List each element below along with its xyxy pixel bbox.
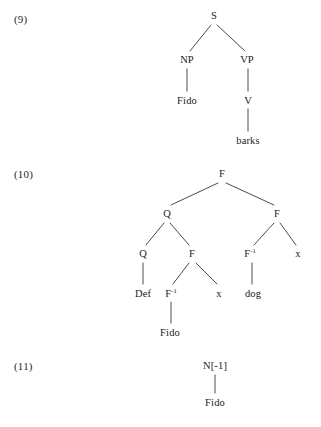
tree10-branch-root-f xyxy=(226,183,274,205)
tree9-node-v: V xyxy=(244,96,252,107)
tree-branch-lines xyxy=(0,0,321,427)
tree11-leaf-fido: Fido xyxy=(205,398,225,409)
tree10-leaf-x-mid: x xyxy=(216,289,221,300)
example-label-11: (11) xyxy=(14,361,33,372)
tree9-leaf-barks: barks xyxy=(236,136,260,147)
tree10-branch-fright-finv xyxy=(254,223,274,245)
tree10-node-f-inner: F xyxy=(189,249,195,260)
tree10-branch-q-q xyxy=(146,223,164,245)
figure-root: (9) S NP VP Fido V barks (10) F Q F Q F … xyxy=(0,0,321,427)
tree10-node-f-root: F xyxy=(219,169,225,180)
tree10-node-f-right: F xyxy=(274,209,280,220)
tree10-node-x-right: x xyxy=(295,249,300,260)
tree9-node-vp: VP xyxy=(240,55,254,66)
tree10-leaf-def: Def xyxy=(135,289,151,300)
tree9-leaf-fido: Fido xyxy=(177,96,197,107)
tree9-node-np: NP xyxy=(180,55,194,66)
example-label-10: (10) xyxy=(14,169,33,180)
tree10-branch-fright-x xyxy=(280,223,296,245)
tree10-branch-finner-x xyxy=(196,263,217,284)
tree10-node-q-inner: Q xyxy=(139,249,147,260)
tree9-branch-s-vp xyxy=(217,25,245,51)
tree9-node-s: S xyxy=(211,11,217,22)
tree10-leaf-dog: dog xyxy=(245,289,261,300)
tree10-f-inverse-left-exponent: -1 xyxy=(171,287,176,294)
tree10-branch-root-q xyxy=(171,183,218,205)
tree11-node-n-minus-1: N[-1] xyxy=(203,361,227,372)
tree10-branch-q-f xyxy=(170,223,189,245)
example-label-9: (9) xyxy=(14,14,27,25)
tree10-node-f-inverse-left: F-1 xyxy=(165,289,176,300)
tree10-branch-finner-finv xyxy=(173,263,189,284)
tree10-node-f-inverse-right: F-1 xyxy=(244,249,255,260)
tree10-f-inverse-right-exponent: -1 xyxy=(250,247,255,254)
tree9-branch-s-np xyxy=(190,25,211,51)
tree10-node-q-left: Q xyxy=(163,209,171,220)
tree10-leaf-fido: Fido xyxy=(160,328,180,339)
